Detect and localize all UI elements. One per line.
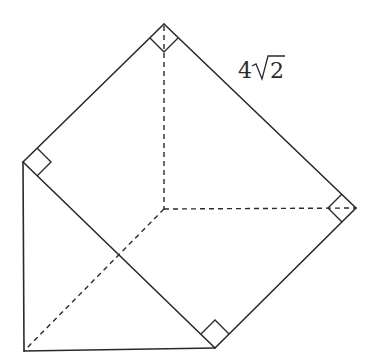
edge-length-label: 4 2 [238, 56, 285, 83]
label-radicand: 2 [270, 58, 284, 83]
right-angle-marker-bottom-right [201, 320, 229, 334]
edge-right-bottom-right [215, 208, 356, 348]
label-coefficient: 4 [238, 58, 252, 83]
prism-diagram: 4 2 [0, 0, 375, 362]
geometry-figure: 4 2 [0, 0, 375, 362]
edge-left-bottom-left [23, 162, 24, 351]
edge-top-right [164, 24, 356, 208]
edge-top-left [23, 24, 164, 162]
right-angle-marker-left [37, 148, 51, 176]
edge-bottom [24, 348, 215, 351]
